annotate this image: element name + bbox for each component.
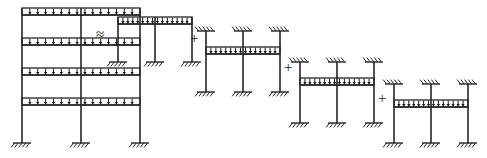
support-hatch (457, 143, 460, 147)
load-arrow-head (141, 21, 144, 24)
load-arrow-head (36, 72, 39, 75)
load-arrow-head (185, 21, 188, 24)
fixed-support-top (232, 27, 252, 31)
load-arrow-head (161, 21, 164, 24)
load-arrow-head (99, 72, 102, 75)
load-arrow-head (83, 72, 86, 75)
load-arrow-head (28, 12, 31, 15)
load-arrow-head (318, 82, 321, 85)
load-arrow-head (115, 102, 118, 105)
support-hatch (70, 143, 73, 147)
load-arrow-head (323, 82, 326, 85)
load-arrow-head (75, 102, 78, 105)
load-arrow-head (328, 82, 331, 85)
load-arrow-head (348, 82, 351, 85)
fixed-support-base (144, 62, 164, 66)
load-arrow-head (83, 102, 86, 105)
load-arrow-head (136, 21, 139, 24)
load-arrow-head (107, 42, 110, 45)
load-arrow-head (442, 104, 445, 107)
load-arrow-head (219, 51, 222, 54)
load-arrow-head (121, 21, 124, 24)
load-arrow-head (452, 104, 455, 107)
load-arrow-head (99, 102, 102, 105)
fixed-support-base (269, 92, 289, 96)
load-arrow-head (68, 12, 71, 15)
load-arrow-head (83, 12, 86, 15)
fixed-support-top (457, 80, 477, 84)
frame-story-4-isolated-substructure (383, 80, 477, 148)
load-arrow-head (151, 21, 154, 24)
support-hatch (269, 27, 272, 31)
load-arrow-head (60, 72, 63, 75)
fixed-support-base (70, 143, 90, 147)
load-arrow-head (427, 104, 430, 107)
load-arrow-head (353, 82, 356, 85)
load-arrow-head (130, 72, 133, 75)
load-arrow-head (131, 21, 134, 24)
load-arrow-head (107, 102, 110, 105)
load-arrow-head (60, 42, 63, 45)
load-arrow-head (52, 102, 55, 105)
fixed-support-base (11, 143, 31, 147)
fixed-support-base (383, 143, 403, 147)
load-arrow-head (68, 72, 71, 75)
support-hatch (289, 123, 292, 127)
support-hatch (326, 123, 329, 127)
fixed-support-top (420, 80, 440, 84)
load-arrow-head (68, 102, 71, 105)
load-arrow-head (52, 42, 55, 45)
fixed-support-top (363, 58, 383, 62)
load-arrow-head (244, 51, 247, 54)
load-arrow-head (417, 104, 420, 107)
load-arrow-head (229, 51, 232, 54)
figure-canvas: ≈+++ (0, 0, 487, 158)
load-arrow-head (358, 82, 361, 85)
fixed-support-top (383, 80, 403, 84)
fixed-support-base (181, 62, 201, 66)
load-arrow-head (28, 102, 31, 105)
load-arrow-head (259, 51, 262, 54)
load-arrow-head (130, 42, 133, 45)
frame-story-2-isolated-substructure (195, 27, 289, 97)
load-arrow-head (461, 104, 464, 107)
structural-frame-diagram (0, 0, 487, 158)
load-arrow-head (156, 21, 159, 24)
fixed-support-base (326, 123, 346, 127)
load-arrow-head (123, 102, 126, 105)
load-arrow-head (234, 51, 237, 54)
load-arrow-head (52, 72, 55, 75)
load-arrow-head (249, 51, 252, 54)
load-arrow-head (28, 42, 31, 45)
support-hatch (326, 58, 329, 62)
load-arrow-head (44, 72, 47, 75)
load-arrow-head (44, 12, 47, 15)
fixed-support-base (363, 123, 383, 127)
operator-plus: + (190, 31, 198, 46)
operator-plus: + (284, 60, 292, 75)
load-arrow-head (397, 104, 400, 107)
load-arrow-head (176, 21, 179, 24)
load-arrow-head (52, 12, 55, 15)
load-arrow-head (28, 72, 31, 75)
load-arrow-head (412, 104, 415, 107)
load-arrow-head (367, 82, 370, 85)
load-arrow-head (36, 12, 39, 15)
load-arrow-head (44, 42, 47, 45)
load-arrow-head (115, 72, 118, 75)
load-arrow-head (60, 102, 63, 105)
load-arrow-head (68, 42, 71, 45)
load-arrow-head (107, 12, 110, 15)
load-arrow-head (308, 82, 311, 85)
load-arrow-head (407, 104, 410, 107)
load-arrow-head (123, 42, 126, 45)
frame-story-1-isolated-substructure (107, 17, 201, 66)
support-hatch (129, 143, 132, 147)
support-hatch (269, 92, 272, 96)
frame-four-story-loaded-frame (11, 8, 149, 147)
load-arrow-head (60, 12, 63, 15)
fixed-support-base (195, 92, 215, 96)
load-arrow-head (447, 104, 450, 107)
load-arrow-head (146, 21, 149, 24)
support-hatch (363, 123, 366, 127)
